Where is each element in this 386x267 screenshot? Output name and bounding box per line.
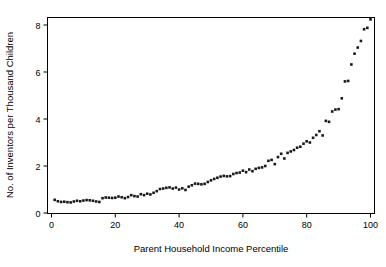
data-point <box>334 108 337 111</box>
data-point <box>111 197 114 200</box>
data-point <box>369 18 372 21</box>
data-point <box>328 121 331 124</box>
data-point <box>114 196 117 199</box>
plot-frame <box>48 18 375 214</box>
data-point <box>108 196 111 199</box>
data-point <box>337 108 340 111</box>
data-point <box>53 199 56 202</box>
data-point <box>82 199 85 202</box>
data-point <box>146 192 149 195</box>
data-point <box>140 193 143 196</box>
data-point <box>184 189 187 192</box>
data-point <box>258 167 261 170</box>
x-axis-label: Parent Household Income Percentile <box>134 243 289 254</box>
y-tick-label: 2 <box>35 162 40 172</box>
data-point <box>155 190 158 193</box>
y-axis-ticks: 02468 <box>35 21 47 219</box>
data-point <box>104 196 107 199</box>
data-point <box>238 171 241 174</box>
data-point <box>101 197 104 200</box>
x-tick-label: 0 <box>49 220 54 230</box>
data-point <box>219 175 222 178</box>
data-point <box>229 175 232 178</box>
data-point <box>347 80 350 83</box>
data-point <box>321 134 324 137</box>
data-point <box>197 183 200 186</box>
data-point <box>356 46 359 49</box>
data-point <box>242 169 245 172</box>
x-tick-label: 80 <box>302 220 312 230</box>
data-point <box>302 142 305 145</box>
data-point <box>175 186 178 189</box>
data-point <box>226 175 229 178</box>
data-point <box>200 183 203 186</box>
data-point <box>254 168 257 171</box>
data-point <box>267 160 270 163</box>
x-tick-label: 60 <box>238 220 248 230</box>
data-point <box>232 173 235 176</box>
data-point <box>283 157 286 160</box>
data-point <box>191 184 194 187</box>
data-point <box>79 200 82 203</box>
data-point <box>149 193 152 196</box>
data-point <box>207 181 210 184</box>
data-points <box>53 18 371 204</box>
data-point <box>57 200 60 203</box>
data-point <box>162 187 165 190</box>
data-point <box>63 200 66 203</box>
data-point <box>120 196 123 199</box>
data-point <box>203 183 206 186</box>
data-point <box>98 201 101 204</box>
data-point <box>136 195 139 198</box>
data-point <box>171 187 174 190</box>
x-axis-ticks: 020406080100 <box>49 214 378 230</box>
y-tick-label: 0 <box>35 209 40 219</box>
data-point <box>274 163 277 166</box>
data-point <box>363 28 366 31</box>
data-point <box>168 186 171 189</box>
x-tick-label: 40 <box>174 220 184 230</box>
data-point <box>277 156 280 159</box>
y-tick-label: 6 <box>35 68 40 78</box>
data-point <box>344 80 347 83</box>
data-point <box>305 140 308 143</box>
data-point <box>165 187 168 190</box>
data-point <box>270 159 273 162</box>
data-point <box>178 188 181 191</box>
data-point <box>293 149 296 152</box>
y-tick-label: 4 <box>35 115 40 125</box>
data-point <box>130 194 133 197</box>
data-point <box>85 199 88 202</box>
data-point <box>181 187 184 190</box>
data-point <box>92 199 95 202</box>
data-point <box>222 175 225 178</box>
data-point <box>261 166 264 169</box>
x-tick-label: 20 <box>110 220 120 230</box>
data-point <box>213 178 216 181</box>
data-point <box>124 197 127 200</box>
data-point <box>350 63 353 66</box>
data-point <box>210 179 213 182</box>
data-point <box>360 40 363 43</box>
y-axis-label: No. of Inventors per Thousand Children <box>4 32 15 198</box>
data-point <box>366 27 369 30</box>
data-point <box>159 188 162 191</box>
data-point <box>60 201 63 204</box>
data-point <box>152 191 155 194</box>
data-point <box>286 152 289 155</box>
data-point <box>235 172 238 175</box>
data-point <box>280 152 283 155</box>
data-point <box>248 168 251 171</box>
data-point <box>95 200 98 203</box>
data-point <box>318 130 321 133</box>
data-point <box>117 195 120 198</box>
y-tick-label: 8 <box>35 21 40 31</box>
scatter-plot: 020406080100 02468 Parent Household Inco… <box>0 0 386 267</box>
data-point <box>299 145 302 148</box>
data-point <box>315 134 318 137</box>
data-point <box>88 199 91 202</box>
data-point <box>325 120 328 123</box>
data-point <box>331 110 334 113</box>
data-point <box>127 196 130 199</box>
data-point <box>133 195 136 198</box>
